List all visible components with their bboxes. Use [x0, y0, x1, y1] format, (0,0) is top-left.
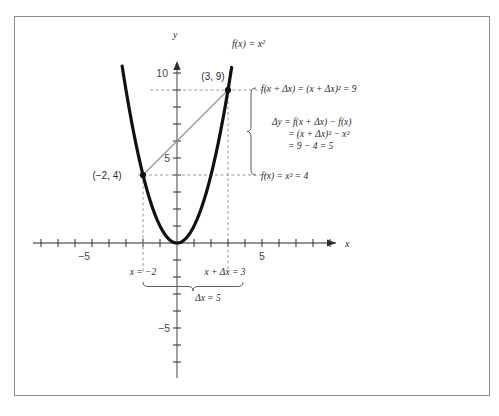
point-b-label: (3, 9) — [201, 71, 224, 82]
annotation-bottom-right: f(x) = x² = 4 — [261, 171, 309, 182]
delta-y-line-1: Δy = f(x + Δx) − f(x) — [271, 117, 351, 128]
math-figure-canvas: x y −5 5 10 5 −5 f(x) = x² — [0, 0, 499, 416]
y-axis-label: y — [172, 29, 178, 40]
x-tick-label--5: −5 — [78, 250, 90, 262]
x-tick-label-5: 5 — [259, 250, 265, 262]
annotation-top-right: f(x + Δx) = (x + Δx)² = 9 — [261, 84, 357, 95]
y-tick-label--5: −5 — [158, 322, 170, 334]
point-a-marker — [140, 172, 146, 178]
x-left-label: x = −2 — [129, 267, 157, 277]
x-right-label: x + Δx = 3 — [203, 267, 245, 277]
point-b-marker — [225, 87, 231, 93]
figure-border — [15, 17, 490, 396]
y-tick-label-10: 10 — [156, 67, 168, 79]
figure-root: x y −5 5 10 5 −5 f(x) = x² — [0, 0, 499, 416]
delta-y-line-3: = 9 − 4 = 5 — [288, 141, 334, 151]
delta-x-label: Δx = 5 — [194, 293, 221, 303]
y-tick-label-5: 5 — [164, 152, 170, 164]
delta-y-line-2: = (x + Δx)² − x² — [288, 129, 350, 140]
x-axis-label: x — [344, 238, 350, 249]
point-a-label: (−2, 4) — [92, 170, 121, 181]
curve-label: f(x) = x² — [232, 38, 266, 50]
